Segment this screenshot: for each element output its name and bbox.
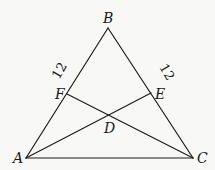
point-label-f: F (54, 86, 66, 102)
point-label-b: B (102, 10, 113, 26)
point-label-e: E (154, 86, 165, 102)
segment-ab (26, 28, 108, 158)
segment-ae (26, 93, 151, 158)
triangle-diagram: B A C F E D 12 12 (0, 0, 215, 170)
length-label-bf: 12 (49, 60, 70, 82)
point-label-a: A (11, 150, 23, 166)
diagram-canvas: B A C F E D 12 12 (0, 0, 215, 170)
length-label-be: 12 (156, 61, 177, 83)
point-label-d: D (103, 120, 115, 136)
point-label-c: C (197, 150, 208, 166)
